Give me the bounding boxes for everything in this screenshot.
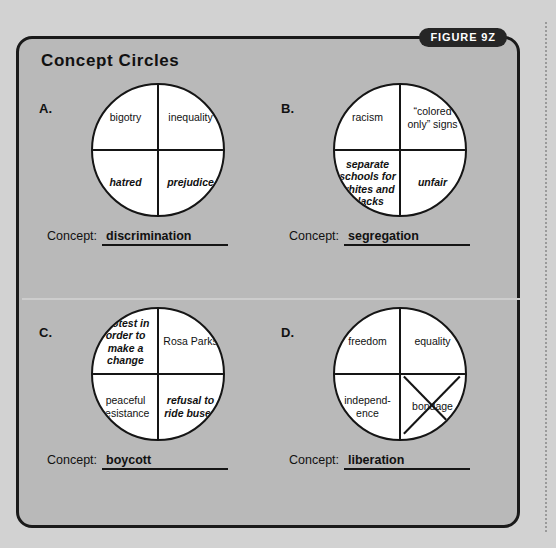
concept-circle-item-c: C. protest in order to make a change Ros… bbox=[25, 301, 261, 513]
circle-b-quadrant-bottom-right[interactable]: unfair bbox=[400, 150, 465, 215]
page-margin-dotted-rule bbox=[545, 22, 547, 532]
circle-b-quadrant-bottom-left[interactable]: separate schools for whites and blacks bbox=[335, 150, 400, 215]
circle-d-horizontal-divider bbox=[335, 373, 465, 375]
item-letter-b: B. bbox=[281, 101, 294, 116]
figure-panel: FIGURE 9Z Concept Circles A. bigotry ine… bbox=[16, 36, 520, 528]
circle-b[interactable]: racism “colored only” signs separate sch… bbox=[333, 83, 467, 217]
concept-answer-a[interactable]: discrimination bbox=[102, 229, 228, 246]
circle-b-quadrant-top-left[interactable]: racism bbox=[335, 85, 400, 150]
circle-b-quadrant-top-right[interactable]: “colored only” signs bbox=[400, 85, 465, 150]
concept-circle-item-d: D. freedom equality independ-ence bondag… bbox=[267, 301, 503, 513]
concept-circle-item-a: A. bigotry inequality hatred prejudice C… bbox=[25, 77, 261, 289]
circle-b-horizontal-divider bbox=[335, 149, 465, 151]
page-title: Concept Circles bbox=[41, 51, 179, 71]
concept-label-d: Concept: bbox=[289, 453, 339, 467]
circle-c-quadrant-top-left[interactable]: protest in order to make a change bbox=[93, 309, 158, 374]
circle-a[interactable]: bigotry inequality hatred prejudice bbox=[91, 83, 225, 217]
circle-d-quadrant-bottom-right[interactable]: bondage bbox=[400, 374, 465, 439]
concept-answer-line-d: Concept: liberation bbox=[289, 453, 470, 470]
circle-a-quadrant-top-right[interactable]: inequality bbox=[158, 85, 223, 150]
circle-c-outline: protest in order to make a change Rosa P… bbox=[91, 307, 225, 441]
circle-c-quadrant-bottom-left[interactable]: peaceful resistance bbox=[93, 374, 158, 439]
concept-answer-line-b: Concept: segregation bbox=[289, 229, 470, 246]
concept-label-c: Concept: bbox=[47, 453, 97, 467]
circle-a-quadrant-bottom-left[interactable]: hatred bbox=[93, 150, 158, 215]
item-letter-d: D. bbox=[281, 325, 294, 340]
concept-answer-c[interactable]: boycott bbox=[102, 453, 228, 470]
circle-d-quadrant-bottom-left[interactable]: independ-ence bbox=[335, 374, 400, 439]
concept-answer-b[interactable]: segregation bbox=[344, 229, 470, 246]
circle-a-quadrant-bottom-right[interactable]: prejudice bbox=[158, 150, 223, 215]
item-letter-c: C. bbox=[39, 325, 52, 340]
circle-b-outline: racism “colored only” signs separate sch… bbox=[333, 83, 467, 217]
circle-a-quadrant-top-left[interactable]: bigotry bbox=[93, 85, 158, 150]
figure-number-badge: FIGURE 9Z bbox=[419, 28, 507, 47]
circle-a-outline: bigotry inequality hatred prejudice bbox=[91, 83, 225, 217]
circle-d-outline: freedom equality independ-ence bondage bbox=[333, 307, 467, 441]
circle-d[interactable]: freedom equality independ-ence bondage bbox=[333, 307, 467, 441]
circle-c-quadrant-bottom-right[interactable]: refusal to ride buses bbox=[158, 374, 223, 439]
concept-answer-line-a: Concept: discrimination bbox=[47, 229, 228, 246]
concept-circle-item-b: B. racism “colored only” signs separate … bbox=[267, 77, 503, 289]
circle-d-quadrant-top-right[interactable]: equality bbox=[400, 309, 465, 374]
row-separator bbox=[22, 298, 520, 300]
concept-answer-d[interactable]: liberation bbox=[344, 453, 470, 470]
item-letter-a: A. bbox=[39, 101, 52, 116]
circle-c-horizontal-divider bbox=[93, 373, 223, 375]
concept-label-b: Concept: bbox=[289, 229, 339, 243]
circle-d-quadrant-top-left[interactable]: freedom bbox=[335, 309, 400, 374]
concept-answer-line-c: Concept: boycott bbox=[47, 453, 228, 470]
concept-label-a: Concept: bbox=[47, 229, 97, 243]
circle-c[interactable]: protest in order to make a change Rosa P… bbox=[91, 307, 225, 441]
circle-a-horizontal-divider bbox=[93, 149, 223, 151]
circle-c-quadrant-top-right[interactable]: Rosa Parks bbox=[158, 309, 223, 374]
